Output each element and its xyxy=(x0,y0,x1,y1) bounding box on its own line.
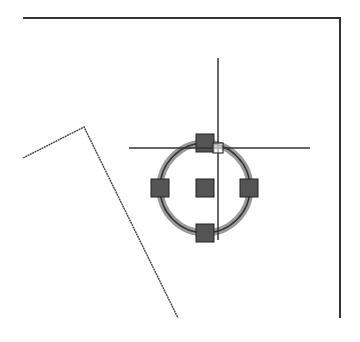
pickbox-icon xyxy=(213,143,223,153)
grip-group xyxy=(151,134,258,242)
grip-quadrant-right[interactable] xyxy=(240,179,258,197)
drawing-canvas[interactable] xyxy=(0,0,360,342)
grip-quadrant-left[interactable] xyxy=(151,179,169,197)
border-polyline[interactable] xyxy=(23,18,340,318)
slanted-polyline[interactable] xyxy=(23,127,178,318)
grip-center[interactable] xyxy=(196,179,214,197)
crosshair-cursor xyxy=(129,58,310,240)
grip-quadrant-top[interactable] xyxy=(196,134,214,152)
grip-quadrant-bottom[interactable] xyxy=(196,224,214,242)
